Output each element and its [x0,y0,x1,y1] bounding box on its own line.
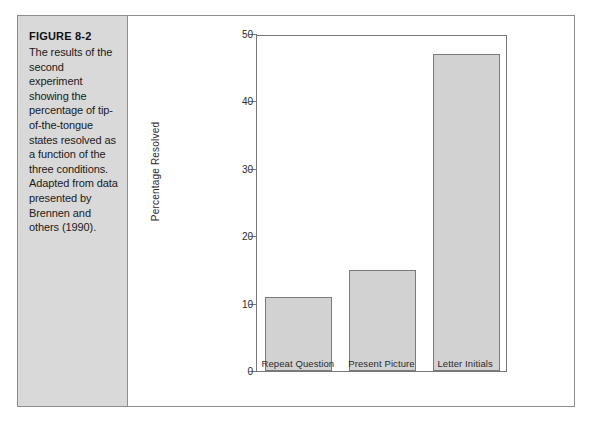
x-axis-label: Present Picture [348,358,414,369]
y-tick-label: 0 [247,366,253,377]
chart-panel: Percentage Resolved 01020304050 Repeat Q… [128,16,574,406]
y-tick-label: 10 [242,298,253,309]
figure-caption-panel: FIGURE 8-2 The results of the second exp… [18,16,128,406]
x-axis-label: Repeat Question [261,358,334,369]
plot-area: 01020304050 [256,35,507,372]
figure-caption-title: FIGURE 8-2 [29,29,119,43]
y-axis-title: Percentage Resolved [150,102,161,242]
y-tick-label: 50 [242,29,253,40]
bar-series [257,36,506,371]
bar [433,54,500,371]
y-tick-label: 30 [242,163,253,174]
bar [349,270,416,371]
figure-caption-body: The results of the second experiment sho… [29,45,119,235]
y-tick-label: 40 [242,96,253,107]
y-tick-label: 20 [242,231,253,242]
figure-frame: FIGURE 8-2 The results of the second exp… [17,15,575,407]
x-axis-label: Letter Initials [437,358,492,369]
